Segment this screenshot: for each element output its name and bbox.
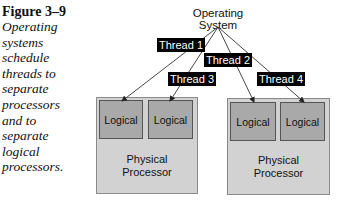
thread-connectors [0,0,345,202]
thread-3-label: Thread 3 [168,72,216,86]
thread-1-label: Thread 1 [157,38,205,52]
thread-4-label: Thread 4 [257,72,305,86]
thread-2-label: Thread 2 [204,53,252,67]
